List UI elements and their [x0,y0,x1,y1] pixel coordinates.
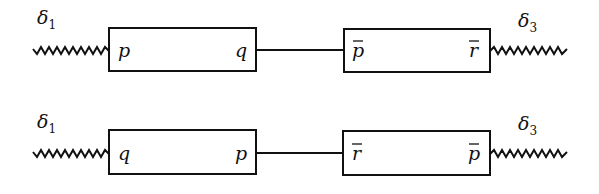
box-a-row2 [109,130,256,174]
delta-3-label-row2: δ3 [518,112,537,138]
box-a-left-label-row2: q [118,142,130,164]
left-spring-1 [33,47,109,54]
box-b-right-label-row2: p [468,142,480,164]
right-spring-2 [490,150,567,157]
box-a-right-label-row1: q [235,39,247,61]
left-spring-2 [33,150,109,157]
diagram-canvas: δ1 p q p r δ3 δ1 q p r p δ3 [0,0,599,194]
row-2: δ1 q p r p δ3 [33,110,567,175]
row-1: δ1 p q p r δ3 [33,6,567,72]
box-b-left-label-row1: p [352,39,364,61]
delta-1-label-row2: δ1 [37,110,56,136]
right-spring-1 [490,47,567,54]
box-a-right-label-row2: p [235,142,247,164]
delta-3-label-row1: δ3 [518,9,537,35]
delta-1-label-row1: δ1 [37,6,56,32]
box-a-row1 [109,28,256,71]
box-a-left-label-row1: p [118,39,130,61]
